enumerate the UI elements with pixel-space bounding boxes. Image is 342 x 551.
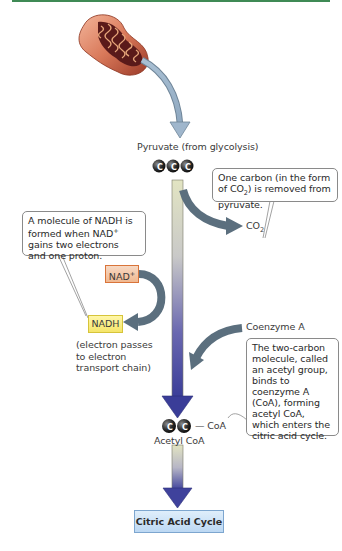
nad-plus-box: NAD+ — [105, 265, 139, 283]
co2-label: CO2 — [246, 220, 264, 234]
coenzyme-a-label: Coenzyme A — [246, 321, 305, 332]
mitochondrion-icon — [79, 15, 148, 75]
mitochondrion-to-pyruvate-arrow — [142, 60, 190, 138]
svg-text:C: C — [167, 423, 173, 432]
callout-co2-removed: One carbon (in the form of CO2) is remov… — [212, 168, 338, 202]
coenzyme-a-arrow — [189, 328, 242, 370]
pyruvate-label: Pyruvate (from glycolysis) — [137, 141, 258, 152]
svg-text:C: C — [157, 163, 163, 172]
svg-text:C: C — [185, 163, 191, 172]
callout-acetyl-group: The two-carbon molecule, called an acety… — [246, 338, 339, 436]
main-pathway-arrow — [162, 180, 193, 418]
nadh-box: NADH — [88, 315, 123, 333]
callout-nadh-formed: A molecule of NADH is formed when NAD+ g… — [22, 211, 146, 256]
coa-tag-label: — CoA — [195, 420, 226, 431]
pyruvate-carbon-atoms: C C C — [153, 160, 194, 173]
acetyl-carbon-atoms: C C — [162, 419, 191, 433]
svg-text:C: C — [171, 163, 177, 172]
acetyl-coa-label: Acetyl CoA — [154, 435, 204, 446]
acetyl-coa-to-cycle-arrow — [163, 445, 192, 508]
svg-text:C: C — [182, 423, 188, 432]
electron-transport-note: (electron passes to electron transport c… — [76, 339, 152, 374]
citric-acid-cycle-box: Citric Acid Cycle — [134, 510, 224, 533]
diagram-artwork: C C C C C — [0, 0, 342, 551]
